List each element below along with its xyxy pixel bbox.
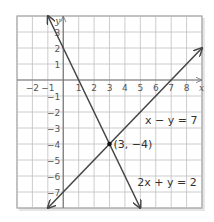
intersection-point [107,142,112,147]
x-axis-label: x [199,83,204,93]
x-tick-label: 3 [107,83,113,93]
y-tick-label: −7 [47,188,60,198]
x-tick-label: 7 [168,83,174,93]
y-tick-label: −4 [47,140,61,150]
y-tick-label: −5 [47,156,60,166]
x-tick-label: 6 [153,83,159,93]
line1-equation-label: x − y = 7 [145,114,197,127]
x-tick-label: 4 [122,83,128,93]
x-tick-label: 2 [91,83,97,93]
x-tick-label: 8 [184,83,190,93]
y-tick-label: −2 [47,108,60,118]
y-tick-label: −1 [47,92,60,102]
x-tick-label: −2 [26,83,39,93]
graph: −2−112345678321−1−2−3−4−5−6−7 x y (3, −4… [0,0,214,222]
y-tick-label: 1 [55,60,61,70]
x-tick-label: 5 [137,83,143,93]
y-tick-label: 2 [55,44,61,54]
y-tick-label: −6 [47,172,61,182]
intersection-label: (3, −4) [114,138,153,151]
y-axis-label: y [54,16,61,26]
y-tick-label: −3 [47,124,60,134]
line2-equation-label: 2x + y = 2 [137,176,196,189]
